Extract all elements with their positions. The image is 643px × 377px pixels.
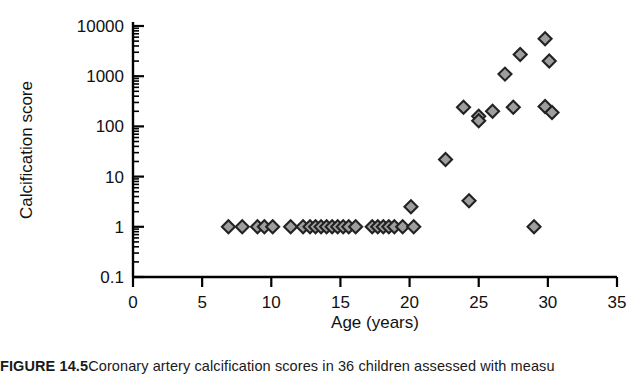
data-point [463, 194, 476, 207]
x-axis-tick-label: 15 [331, 293, 350, 312]
x-axis-tick-label: 30 [538, 293, 557, 312]
data-point [528, 220, 541, 233]
data-point [543, 55, 556, 68]
figure-caption: FIGURE 14.5Coronary artery calcification… [0, 358, 643, 374]
data-point [498, 68, 511, 81]
y-axis-tick-label: 10000 [77, 17, 124, 36]
figure-container: 0.1110100100010000 05101520253035 Age (y… [0, 0, 643, 377]
y-axis-title: Calcification score [17, 81, 36, 219]
x-axis-tick-label: 20 [400, 293, 419, 312]
y-axis-tick-label: 1000 [86, 67, 124, 86]
x-axis-tick-label: 25 [469, 293, 488, 312]
y-axis-tick-labels: 0.1110100100010000 [77, 17, 124, 287]
data-point [407, 220, 420, 233]
data-point [507, 101, 520, 114]
data-point [222, 220, 235, 233]
data-point [404, 200, 417, 213]
data-point [539, 32, 552, 45]
data-point [439, 153, 452, 166]
x-axis-tick-label: 10 [262, 293, 281, 312]
x-axis-tick-label: 5 [197, 293, 206, 312]
data-point [514, 48, 527, 61]
data-point [266, 220, 279, 233]
data-point [486, 105, 499, 118]
figure-caption-text: Coronary artery calcification scores in … [88, 358, 554, 374]
scatter-plot: 0.1110100100010000 05101520253035 Age (y… [0, 0, 643, 360]
y-axis-tick-label: 100 [96, 117, 124, 136]
y-axis-tick-label: 0.1 [100, 268, 124, 287]
figure-caption-label: FIGURE 14.5 [0, 358, 88, 374]
x-axis-tick-label: 0 [128, 293, 137, 312]
x-axis-tick-label: 35 [608, 293, 627, 312]
data-point [236, 220, 249, 233]
y-axis-tick-label: 10 [105, 168, 124, 187]
y-axis-ticks [133, 26, 144, 277]
data-point [457, 101, 470, 114]
x-axis-ticks [133, 277, 617, 287]
x-axis-tick-labels: 05101520253035 [128, 293, 626, 312]
x-axis-title: Age (years) [331, 313, 419, 332]
y-axis-tick-label: 1 [115, 218, 124, 237]
data-point-group [222, 32, 559, 233]
